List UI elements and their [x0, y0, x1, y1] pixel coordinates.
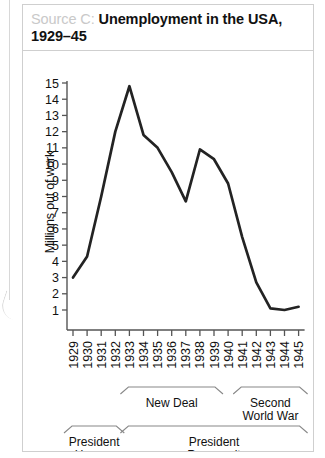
x-axis-tick-label: 1938 — [193, 341, 207, 369]
annotation-bracket — [120, 387, 223, 394]
annotation-president-roosevelt: PresidentRoosevelt — [120, 426, 307, 451]
y-axis-tick-label: 5 — [52, 239, 59, 253]
annotation-bracket — [64, 426, 124, 433]
line-chart: 1234567891011121314151929193019311932193… — [23, 55, 315, 451]
figure-caption: Source C: Unemployment in the USA, 1929–… — [23, 5, 313, 51]
y-axis-tick-label: 1 — [52, 304, 59, 318]
annotation-new-deal: New Deal — [120, 387, 223, 410]
y-axis-tick-label: 3 — [52, 271, 59, 285]
y-axis-tick-label: 11 — [46, 141, 59, 155]
y-axis-tick-label: 12 — [45, 125, 59, 139]
x-axis-tick-label: 1934 — [137, 341, 151, 369]
y-axis-tick-label: 4 — [52, 255, 59, 269]
x-axis-tick-label: 1941 — [236, 341, 250, 369]
y-axis-tick-label: 10 — [45, 158, 59, 172]
x-axis-tick-label: 1944 — [278, 341, 292, 369]
x-axis-tick-label: 1937 — [179, 341, 193, 369]
annotation-second-world-war: SecondWorld War — [233, 387, 307, 423]
unemployment-series-line — [73, 86, 299, 310]
y-axis-tick-label: 13 — [45, 109, 59, 123]
annotation-bracket — [233, 387, 307, 394]
annotation-label: Second — [250, 396, 291, 410]
annotation-label: President — [69, 435, 120, 449]
x-axis-tick-label: 1932 — [109, 341, 123, 369]
figure-container: Source C: Unemployment in the USA, 1929–… — [22, 4, 314, 452]
page-edge-line — [9, 0, 10, 300]
x-axis-tick-label: 1940 — [222, 341, 236, 369]
x-axis-tick-label: 1939 — [208, 341, 222, 369]
x-axis-tick-label: 1930 — [81, 341, 95, 369]
annotation-label: World War — [242, 409, 298, 423]
annotation-label: Hoover — [75, 448, 114, 451]
source-label: Source C: — [31, 11, 95, 27]
x-axis-tick-label: 1933 — [123, 341, 137, 369]
x-axis-tick-label: 1945 — [292, 341, 306, 369]
y-axis-tick-label: 8 — [52, 190, 59, 204]
x-axis-tick-label: 1935 — [151, 341, 165, 369]
y-axis-tick-label: 14 — [45, 93, 59, 107]
page-corner-curl — [0, 290, 21, 319]
x-axis-tick-label: 1942 — [250, 341, 264, 369]
book-page-edge — [0, 0, 18, 458]
annotation-president-hoover: PresidentHoover — [64, 426, 124, 451]
y-axis-tick-label: 9 — [52, 174, 59, 188]
annotation-label: New Deal — [146, 396, 198, 410]
y-axis-tick-label: 15 — [45, 77, 59, 91]
x-axis-tick-label: 1936 — [165, 341, 179, 369]
x-axis-tick-label: 1929 — [67, 341, 81, 369]
y-axis-tick-label: 7 — [52, 206, 59, 220]
x-axis-tick-label: 1943 — [264, 341, 278, 369]
annotation-label: President — [189, 435, 240, 449]
x-axis-tick-label: 1931 — [95, 341, 109, 369]
plot-area: Millions out of work 1234567891011121314… — [23, 55, 315, 451]
y-axis-tick-label: 2 — [52, 287, 59, 301]
annotation-label: Roosevelt — [187, 448, 241, 451]
y-axis-tick-label: 6 — [52, 222, 59, 236]
annotation-bracket — [120, 426, 307, 433]
